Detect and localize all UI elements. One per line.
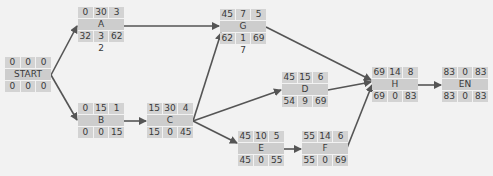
node-bottom-row: 45055 — [238, 155, 284, 166]
node-bottom-cell: 45 — [238, 155, 253, 166]
node-top-row: 69148 — [372, 67, 418, 78]
node-top-cell: 45 — [238, 131, 253, 142]
node-bottom-cell: 15 — [109, 127, 124, 138]
node-annotation-label: 7 — [220, 45, 266, 56]
node-bottom-cell: 0 — [94, 127, 109, 138]
node-bottom-cell: 32 — [78, 31, 93, 42]
node-top-row: 15304 — [147, 103, 193, 114]
node-annotation-label: 2 — [78, 43, 124, 54]
node-top-row: 0151 — [78, 103, 124, 114]
node-bottom-cell: 0 — [458, 91, 473, 102]
node-bottom-row: 55069 — [302, 155, 348, 166]
node-bottom-cell: 83 — [442, 91, 457, 102]
node-name: C — [147, 115, 193, 126]
edge-c-d — [193, 90, 281, 121]
node-bottom-cell: 83 — [473, 91, 488, 102]
node-top-cell: 0 — [458, 67, 473, 78]
node-top-cell: 55 — [302, 131, 317, 142]
node-bottom-row: 54969 — [282, 96, 328, 107]
node-e: 45105E45055 — [238, 131, 284, 167]
node-name: START — [5, 69, 51, 80]
node-top-cell: 3 — [109, 7, 124, 18]
node-c: 15304C15045 — [147, 103, 193, 139]
node-top-row: 45156 — [282, 72, 328, 83]
node-name: A — [78, 19, 124, 30]
node-top-cell: 15 — [298, 72, 313, 83]
edge-start-a — [51, 26, 77, 75]
node-name: F — [302, 143, 348, 154]
node-top-row: 0303 — [78, 7, 124, 18]
node-bottom-row: 0015 — [78, 127, 124, 138]
node-bottom-cell: 55 — [302, 155, 317, 166]
node-bottom-cell: 69 — [333, 155, 348, 166]
node-bottom-cell: 0 — [388, 91, 403, 102]
node-bottom-row: 000 — [5, 81, 51, 92]
node-top-cell: 83 — [442, 67, 457, 78]
node-bottom-row: 83083 — [442, 91, 488, 102]
node-bottom-cell: 0 — [5, 81, 20, 92]
node-top-cell: 1 — [109, 103, 124, 114]
node-top-cell: 83 — [473, 67, 488, 78]
node-f: 55146F55069 — [302, 131, 348, 167]
node-bottom-cell: 3 — [94, 31, 109, 42]
node-top-cell: 0 — [21, 57, 36, 68]
node-top-row: 000 — [5, 57, 51, 68]
node-bottom-cell: 69 — [251, 33, 266, 44]
node-g: 4575G62169 — [220, 9, 266, 45]
node-name: D — [282, 84, 328, 95]
node-b: 0151B0015 — [78, 103, 124, 139]
node-top-cell: 10 — [254, 131, 269, 142]
node-top-cell: 30 — [94, 7, 109, 18]
node-bottom-row: 32362 — [78, 31, 124, 42]
node-top-cell: 14 — [388, 67, 403, 78]
node-top-cell: 15 — [147, 103, 162, 114]
node-bottom-cell: 0 — [36, 81, 51, 92]
node-top-cell: 7 — [236, 9, 251, 20]
node-bottom-row: 62169 — [220, 33, 266, 44]
node-top-cell: 0 — [78, 103, 93, 114]
edge-f-h — [347, 85, 372, 148]
edge-start-b — [51, 75, 77, 120]
node-bottom-cell: 62 — [220, 33, 235, 44]
node-bottom-cell: 0 — [318, 155, 333, 166]
node-top-cell: 5 — [269, 131, 284, 142]
node-name: G — [220, 21, 266, 32]
edge-d-h — [328, 82, 371, 90]
node-top-row: 83083 — [442, 67, 488, 78]
node-top-cell: 0 — [78, 7, 93, 18]
node-bottom-row: 69083 — [372, 91, 418, 102]
node-top-row: 4575 — [220, 9, 266, 20]
node-a: 0303A32362 — [78, 7, 124, 43]
node-bottom-cell: 15 — [147, 127, 162, 138]
node-bottom-cell: 55 — [269, 155, 284, 166]
node-bottom-cell: 69 — [372, 91, 387, 102]
node-top-cell: 14 — [318, 131, 333, 142]
node-name: H — [372, 79, 418, 90]
node-bottom-cell: 0 — [254, 155, 269, 166]
node-top-cell: 8 — [403, 67, 418, 78]
node-top-cell: 0 — [36, 57, 51, 68]
node-bottom-cell: 54 — [282, 96, 297, 107]
node-name: B — [78, 115, 124, 126]
node-bottom-cell: 0 — [21, 81, 36, 92]
node-top-cell: 6 — [333, 131, 348, 142]
node-top-row: 45105 — [238, 131, 284, 142]
edge-c-g — [193, 33, 221, 121]
node-top-cell: 45 — [220, 9, 235, 20]
node-bottom-cell: 1 — [236, 33, 251, 44]
edge-c-e — [193, 121, 237, 143]
node-top-row: 55146 — [302, 131, 348, 142]
node-name: E — [238, 143, 284, 154]
node-top-cell: 4 — [178, 103, 193, 114]
node-bottom-cell: 0 — [163, 127, 178, 138]
node-d: 45156D54969 — [282, 72, 328, 108]
node-start: 000START000 — [5, 57, 51, 93]
node-bottom-cell: 69 — [313, 96, 328, 107]
node-top-cell: 15 — [94, 103, 109, 114]
node-bottom-cell: 62 — [109, 31, 124, 42]
node-top-cell: 69 — [372, 67, 387, 78]
node-bottom-cell: 0 — [78, 127, 93, 138]
node-top-cell: 6 — [313, 72, 328, 83]
node-bottom-cell: 45 — [178, 127, 193, 138]
node-bottom-row: 15045 — [147, 127, 193, 138]
